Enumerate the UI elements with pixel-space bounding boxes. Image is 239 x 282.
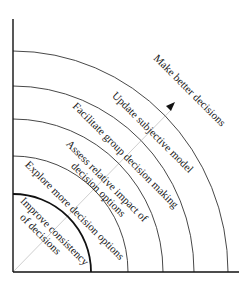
arrowhead-icon — [166, 102, 175, 111]
label-ring-5: Update subjective model — [110, 89, 196, 175]
label-update-subjective-model: Update subjective model — [110, 89, 196, 175]
decision-support-diagram: Make better decisions Update subjective … — [0, 0, 239, 282]
label-make-better-decisions: Make better decisions — [152, 52, 229, 129]
label-ring-6: Make better decisions — [152, 52, 229, 129]
